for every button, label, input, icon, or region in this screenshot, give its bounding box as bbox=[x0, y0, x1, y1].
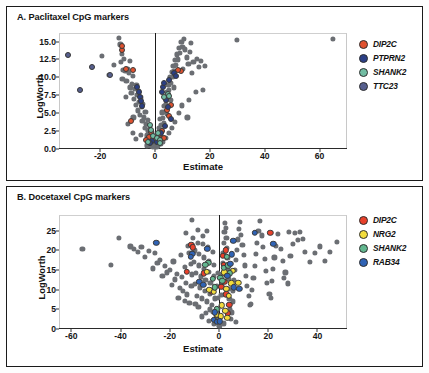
y-tick-label: 2.5 bbox=[44, 126, 56, 136]
legend-swatch-icon bbox=[359, 68, 368, 77]
data-point-dip2c bbox=[119, 43, 125, 49]
panel-b-title: B. Docetaxel CpG markers bbox=[17, 192, 130, 202]
legend-swatch-icon bbox=[359, 40, 368, 49]
x-tick-label: 40 bbox=[260, 151, 270, 161]
data-point-ptprn2 bbox=[166, 77, 172, 83]
legend-label: TTC23 bbox=[373, 81, 398, 91]
legend-label: RAB34 bbox=[373, 257, 399, 267]
x-tick-label: 20 bbox=[205, 151, 215, 161]
y-tick-label: 10.0 bbox=[39, 72, 56, 82]
legend-swatch-icon bbox=[359, 244, 368, 253]
y-tick-label: 7.5 bbox=[44, 90, 56, 100]
panel-a-plot-area bbox=[59, 33, 347, 149]
legend-label: DIP2C bbox=[373, 215, 397, 225]
panel-a-legend: DIP2CPTPRN2SHANK2TTC23 bbox=[359, 37, 406, 93]
data-point-ttc23 bbox=[89, 64, 95, 70]
legend-label: NRG2 bbox=[373, 229, 395, 239]
legend-label: SHANK2 bbox=[373, 67, 406, 77]
panel-a-title: A. Paclitaxel CpG markers bbox=[17, 12, 129, 22]
data-point-ttc23 bbox=[65, 52, 71, 58]
data-point-shank2 bbox=[145, 139, 151, 145]
data-point-shank2 bbox=[157, 140, 163, 146]
x-tick-mark bbox=[219, 329, 220, 332]
data-point-ptprn2 bbox=[165, 104, 171, 110]
panel-b-y-ticks: 0510152025 bbox=[7, 215, 56, 329]
x-tick-label: -20 bbox=[164, 331, 176, 341]
x-tick-label: 0 bbox=[153, 151, 158, 161]
legend-item-shank2: SHANK2 bbox=[359, 65, 406, 79]
legend-swatch-icon bbox=[359, 258, 368, 267]
x-tick-mark bbox=[155, 149, 156, 152]
panel-b-x-axis-label: Estimate bbox=[59, 343, 347, 354]
x-tick-mark bbox=[209, 149, 210, 152]
data-point-ptprn2 bbox=[168, 116, 174, 122]
y-tick-label: 15 bbox=[46, 265, 56, 275]
y-tick-label: 15.0 bbox=[39, 37, 56, 47]
panel-a-y-ticks: 0.02.55.07.510.012.515.0 bbox=[7, 33, 56, 149]
legend-swatch-icon bbox=[359, 216, 368, 225]
y-tick-label: 5.0 bbox=[44, 108, 56, 118]
legend-label: SHANK2 bbox=[373, 243, 406, 253]
legend-swatch-icon bbox=[359, 54, 368, 63]
y-tick-label: 20 bbox=[46, 245, 56, 255]
panel-a-paclitaxel: A. Paclitaxel CpG markers LogWorth 0.02.… bbox=[6, 6, 423, 181]
panel-b-docetaxel: B. Docetaxel CpG markers LogWorth 051015… bbox=[6, 186, 423, 367]
legend-item-dip2c: DIP2C bbox=[359, 213, 406, 227]
x-tick-label: -40 bbox=[114, 331, 126, 341]
panel-b-legend: DIP2CNRG2SHANK2RAB34 bbox=[359, 213, 406, 269]
data-point-ptprn2 bbox=[173, 73, 179, 79]
legend-item-rab34: RAB34 bbox=[359, 255, 406, 269]
x-tick-mark bbox=[317, 329, 318, 332]
data-point-dip2c bbox=[128, 118, 134, 124]
x-tick-mark bbox=[169, 329, 170, 332]
x-tick-label: 0 bbox=[217, 331, 222, 341]
legend-item-ptprn2: PTPRN2 bbox=[359, 51, 406, 65]
x-tick-label: 60 bbox=[315, 151, 325, 161]
x-tick-label: -60 bbox=[65, 331, 77, 341]
panel-a-x-axis-label: Estimate bbox=[59, 161, 347, 172]
legend-swatch-icon bbox=[359, 230, 368, 239]
data-point-shank2 bbox=[155, 130, 161, 136]
y-tick-label: 0.0 bbox=[44, 144, 56, 154]
legend-item-ttc23: TTC23 bbox=[359, 79, 406, 93]
data-point-ttc23 bbox=[107, 72, 113, 78]
x-tick-label: 40 bbox=[313, 331, 323, 341]
legend-item-shank2: SHANK2 bbox=[359, 241, 406, 255]
figure-root: A. Paclitaxel CpG markers LogWorth 0.02.… bbox=[0, 0, 429, 373]
legend-item-nrg2: NRG2 bbox=[359, 227, 406, 241]
legend-swatch-icon bbox=[359, 82, 368, 91]
data-point-shank2 bbox=[161, 94, 167, 100]
x-tick-mark bbox=[71, 329, 72, 332]
data-point-ptprn2 bbox=[162, 123, 168, 129]
x-tick-mark bbox=[268, 329, 269, 332]
x-tick-label: 20 bbox=[263, 331, 273, 341]
y-tick-label: 25 bbox=[46, 226, 56, 236]
panel-b-x-ticks: -60-40-2002040 bbox=[59, 329, 347, 343]
legend-label: PTPRN2 bbox=[373, 53, 405, 63]
data-point-ptprn2 bbox=[139, 103, 145, 109]
x-tick-mark bbox=[319, 149, 320, 152]
legend-label: DIP2C bbox=[373, 39, 397, 49]
x-tick-label: -20 bbox=[94, 151, 106, 161]
y-tick-label: 10 bbox=[46, 285, 56, 295]
y-tick-label: 12.5 bbox=[39, 54, 56, 64]
x-tick-mark bbox=[264, 149, 265, 152]
x-tick-mark bbox=[120, 329, 121, 332]
data-point-dip2c bbox=[130, 67, 136, 73]
panel-b-plot-area bbox=[59, 215, 347, 329]
legend-item-dip2c: DIP2C bbox=[359, 37, 406, 51]
x-tick-mark bbox=[100, 149, 101, 152]
data-point-ttc23 bbox=[77, 87, 83, 93]
